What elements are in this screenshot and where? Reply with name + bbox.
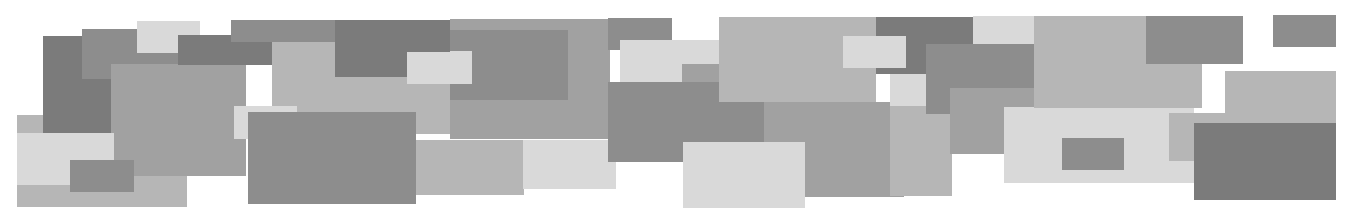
collage-rectangle xyxy=(450,51,472,84)
collage-rectangle xyxy=(523,140,616,189)
collage-rectangle xyxy=(70,160,134,192)
collage-rectangle xyxy=(248,112,416,204)
collage-rectangle xyxy=(1194,123,1336,200)
collage-rectangle xyxy=(1062,138,1124,170)
collage-rectangle xyxy=(1273,15,1336,47)
collage-rectangle xyxy=(416,140,524,195)
rectangle-collage-artwork xyxy=(0,0,1353,212)
collage-rectangle xyxy=(843,36,906,68)
collage-rectangle xyxy=(1146,16,1243,64)
collage-rectangle xyxy=(890,106,952,196)
collage-rectangle xyxy=(973,16,1035,44)
collage-rectangle xyxy=(1225,71,1336,123)
collage-rectangle xyxy=(683,142,805,208)
